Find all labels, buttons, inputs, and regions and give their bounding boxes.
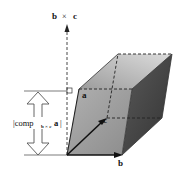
parallelepiped-diagram: b × c a c b |comp b × c a | xyxy=(0,0,184,172)
height-label-subscript: b × c xyxy=(41,124,52,129)
right-angle-marker xyxy=(67,88,72,93)
vector-c-label: c xyxy=(103,115,107,125)
axis-arrowhead-icon xyxy=(65,24,70,32)
axis-label-c: c xyxy=(73,11,77,21)
axis-label-times: × xyxy=(62,12,67,21)
axis-label-b: b xyxy=(52,11,57,21)
vector-b-label: b xyxy=(118,158,123,168)
height-label-suffix: | xyxy=(60,118,62,128)
vector-a-label: a xyxy=(82,90,87,100)
height-label-prefix: |comp xyxy=(13,118,34,128)
